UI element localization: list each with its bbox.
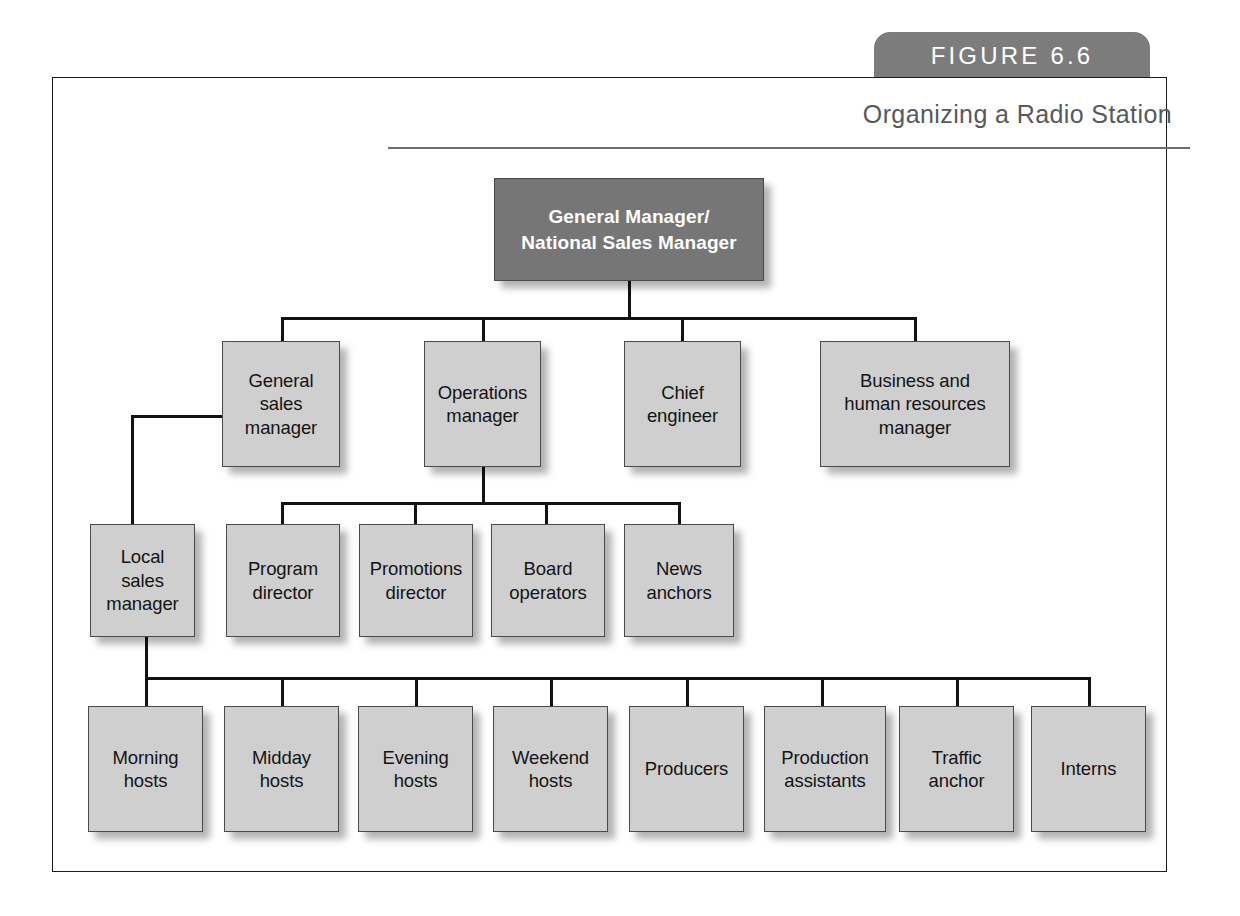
org-chart: General Manager/ National Sales Manager … (0, 0, 1240, 916)
node-local-sales-manager[interactable]: Local sales manager (90, 524, 195, 637)
node-label: General Manager/ National Sales Manager (515, 204, 743, 255)
connector-drop-chief (681, 317, 684, 341)
connector-drop-producers (686, 677, 689, 706)
connector-drop-midday (281, 677, 284, 706)
connector-level1-bus (281, 317, 917, 320)
node-label: Midday hosts (246, 746, 317, 793)
connector-drop-evening (415, 677, 418, 706)
node-label: Morning hosts (106, 746, 184, 793)
node-label: Traffic anchor (923, 746, 991, 793)
node-label: Promotions director (364, 557, 469, 604)
node-label: General sales manager (239, 369, 323, 439)
node-label: Program director (242, 557, 324, 604)
node-label: Business and human resources manager (838, 369, 991, 439)
connector-drop-board (545, 502, 548, 524)
node-weekend-hosts[interactable]: Weekend hosts (493, 706, 608, 832)
node-production-assistants[interactable]: Production assistants (764, 706, 886, 832)
connector-drop-weekend (550, 677, 553, 706)
node-promotions-director[interactable]: Promotions director (359, 524, 473, 637)
connector-gsm-elbow-vertical (131, 415, 134, 524)
connector-progdir-stem (145, 637, 148, 679)
node-traffic-anchor[interactable]: Traffic anchor (899, 706, 1014, 832)
node-label: Operations manager (432, 381, 534, 428)
node-board-operators[interactable]: Board operators (491, 524, 605, 637)
node-label: Local sales manager (100, 545, 184, 615)
connector-drop-gsm (281, 317, 284, 341)
connector-gsm-elbow-horizontal (131, 415, 222, 418)
node-label: Production assistants (775, 746, 874, 793)
node-label: Board operators (503, 557, 592, 604)
connector-drop-ops (482, 317, 485, 341)
node-morning-hosts[interactable]: Morning hosts (88, 706, 203, 832)
connector-drop-traffic (956, 677, 959, 706)
node-chief-engineer[interactable]: Chief engineer (624, 341, 741, 467)
connector-drop-news (678, 502, 681, 524)
node-label: News anchors (640, 557, 717, 604)
node-evening-hosts[interactable]: Evening hosts (358, 706, 473, 832)
connector-root-stem (628, 281, 631, 319)
connector-drop-prodasst (821, 677, 824, 706)
connector-drop-promodir (414, 502, 417, 524)
node-midday-hosts[interactable]: Midday hosts (224, 706, 339, 832)
node-operations-manager[interactable]: Operations manager (424, 341, 541, 467)
node-interns[interactable]: Interns (1031, 706, 1146, 832)
node-label: Chief engineer (641, 381, 724, 428)
connector-level2-bus (281, 502, 681, 505)
node-business-hr-manager[interactable]: Business and human resources manager (820, 341, 1010, 467)
connector-level3-bus (145, 677, 1091, 680)
node-label: Weekend hosts (506, 746, 595, 793)
connector-drop-morning (145, 677, 148, 706)
connector-drop-bizhr (914, 317, 917, 341)
node-producers[interactable]: Producers (629, 706, 744, 832)
figure-page: FIGURE 6.6 Organizing a Radio Station (0, 0, 1240, 916)
connector-ops-stem (482, 467, 485, 504)
node-news-anchors[interactable]: News anchors (624, 524, 734, 637)
node-general-manager[interactable]: General Manager/ National Sales Manager (494, 178, 764, 281)
node-program-director[interactable]: Program director (226, 524, 340, 637)
connector-drop-interns (1088, 677, 1091, 706)
node-label: Interns (1055, 757, 1123, 780)
node-label: Evening hosts (376, 746, 454, 793)
connector-drop-progdir (281, 502, 284, 524)
node-general-sales-manager[interactable]: General sales manager (222, 341, 340, 467)
node-label: Producers (639, 757, 734, 780)
